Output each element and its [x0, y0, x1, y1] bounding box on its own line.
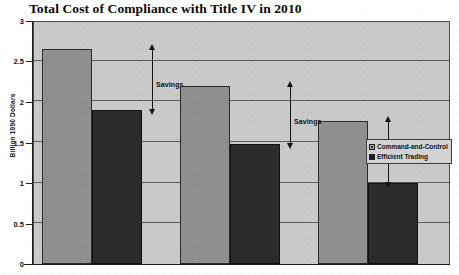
ytick-label-0: 0	[0, 260, 24, 269]
legend-item-command-and-control: Command-and-Control	[369, 142, 448, 151]
ytick-mark-0	[26, 264, 33, 265]
y-axis-title: Billion 1990 Dollars	[9, 78, 16, 174]
bar-command-and-control-3	[318, 121, 368, 264]
savings-arrow-2	[290, 86, 291, 145]
gridline-2.5	[34, 60, 449, 61]
chart-legend: Command-and-Control Efficient Trading	[366, 139, 452, 164]
bar-command-and-control-1	[42, 49, 92, 265]
ytick-mark-2	[26, 102, 33, 103]
bar-efficient-trading-1	[92, 110, 142, 264]
legend-label-efficient-trading: Efficient Trading	[377, 152, 428, 161]
savings-label-1: Savings	[156, 81, 184, 88]
ytick-label-0.5: 0.5	[0, 220, 24, 229]
chart-title: Total Cost of Compliance with Title IV i…	[29, 1, 302, 17]
ytick-label-1: 1	[0, 179, 24, 188]
gridline-2	[34, 100, 449, 101]
bar-efficient-trading-3	[368, 183, 418, 264]
ytick-mark-1	[26, 183, 33, 184]
ytick-label-2.5: 2.5	[0, 57, 24, 66]
x-axis-line	[24, 264, 450, 265]
legend-item-efficient-trading: Efficient Trading	[369, 152, 448, 161]
bar-efficient-trading-2	[230, 144, 280, 264]
savings-label-2: Savings	[294, 118, 322, 125]
ytick-mark-2.5	[26, 61, 33, 62]
ytick-mark-3	[26, 21, 33, 22]
legend-label-command-and-control: Command-and-Control	[377, 142, 448, 151]
ytick-label-3: 3	[0, 17, 24, 26]
ytick-mark-1.5	[26, 143, 33, 144]
bar-command-and-control-2	[180, 86, 230, 264]
hatched-square-icon	[369, 144, 375, 150]
ytick-mark-0.5	[26, 224, 33, 225]
savings-arrow-1	[152, 49, 153, 111]
solid-square-icon	[369, 154, 375, 160]
